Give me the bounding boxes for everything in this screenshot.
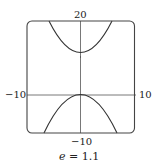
caption-value: = 1.1	[66, 150, 100, 163]
eccentricity-caption: e = 1.1	[59, 151, 99, 162]
tick-label-bottom: −10	[71, 137, 92, 147]
tick-label-left: −10	[5, 90, 26, 100]
tick-label-top: 20	[74, 10, 87, 20]
tick-label-right: 10	[139, 90, 152, 100]
